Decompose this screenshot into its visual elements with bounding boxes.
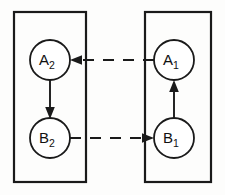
arrowhead-right-b1 [142,133,154,143]
node-a1[interactable]: A1 [154,40,194,80]
node-b1[interactable]: B1 [154,118,194,158]
node-a1-subscript: 1 [173,59,179,71]
node-b2-subscript: 2 [49,137,55,149]
node-a1-base: A [163,51,173,68]
node-a2[interactable]: A2 [30,40,70,80]
node-b1-base: B [163,129,173,146]
edge-b2-to-b1 [70,133,154,143]
node-a2-base: A [39,51,49,68]
diagram-canvas: A2 B2 A1 B1 [0,0,225,195]
node-b2[interactable]: B2 [30,118,70,158]
edge-b1-to-a1 [169,80,179,118]
arrowhead-left-a2 [70,55,82,65]
edge-a1-to-a2 [70,55,154,65]
node-b1-subscript: 1 [173,137,179,149]
node-a2-subscript: 2 [49,59,55,71]
edge-a2-to-b2 [45,80,55,119]
node-b2-base: B [39,129,49,146]
arrowhead-up-a1 [169,80,179,92]
